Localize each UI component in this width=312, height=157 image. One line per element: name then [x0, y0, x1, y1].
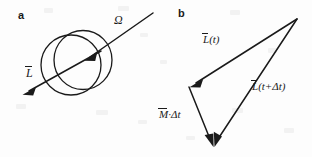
figure-canvas: a b L Ω L(t) L(t+Δt) M·Δt: [0, 0, 312, 157]
angular-velocity-label: Ω: [114, 14, 123, 26]
sphere-meridian-circle: [54, 31, 112, 90]
scan-noise: [16, 6, 294, 140]
M-dt-argument: ·Δt: [168, 108, 180, 120]
angular-momentum-label: L: [26, 66, 33, 79]
L-of-t-arrow: [190, 19, 298, 88]
sphere-group: [41, 31, 112, 96]
figure-artwork: [0, 0, 312, 157]
panel-b-letter: b: [178, 8, 185, 19]
M-dt-label: M·Δt: [159, 108, 180, 120]
L-of-t-plus-dt-label: L(t+Δt): [252, 80, 285, 92]
L-of-t-label: L(t): [203, 33, 220, 45]
L-of-t-plus-dt-symbol: L: [252, 80, 258, 92]
L-of-t-plus-dt-argument: (t+Δt): [258, 80, 285, 92]
M-dt-symbol: M: [159, 108, 168, 120]
panel-a-letter: a: [18, 10, 24, 21]
sphere-outline-circle: [41, 35, 101, 95]
L-of-t-symbol: L: [203, 33, 209, 45]
L-of-t-argument: (t): [209, 33, 219, 45]
angular-momentum-symbol: L: [26, 66, 33, 79]
